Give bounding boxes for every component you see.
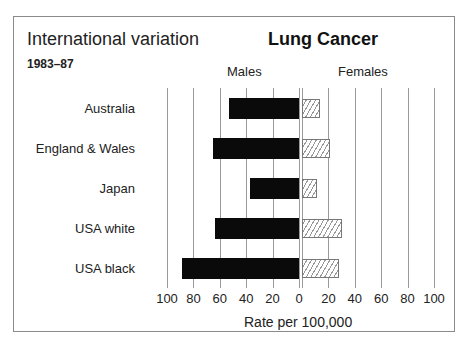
bar-female bbox=[302, 219, 342, 238]
category-label: USA white bbox=[75, 221, 135, 236]
bar-male bbox=[213, 138, 299, 159]
gridline-male bbox=[299, 88, 300, 288]
x-tick-label-female: 100 bbox=[423, 291, 445, 306]
category-label: USA black bbox=[75, 261, 135, 276]
chart-period: 1983–87 bbox=[27, 57, 74, 71]
bar-male bbox=[182, 258, 299, 279]
x-tick-label-female: 40 bbox=[348, 291, 362, 306]
bar-male bbox=[215, 218, 299, 239]
bar-male bbox=[250, 178, 299, 199]
x-tick-label-male: 100 bbox=[156, 291, 178, 306]
males-header: Males bbox=[227, 64, 262, 79]
x-tick-label-male: 80 bbox=[186, 291, 200, 306]
category-label: Australia bbox=[84, 101, 135, 116]
chart-title: Lung Cancer bbox=[268, 29, 378, 50]
x-tick-label-male: 40 bbox=[239, 291, 253, 306]
x-tick-label-female: 20 bbox=[321, 291, 335, 306]
gridline-female bbox=[434, 88, 435, 288]
bar-female bbox=[302, 99, 320, 118]
category-label: Japan bbox=[100, 181, 135, 196]
x-tick-label-female: 60 bbox=[374, 291, 388, 306]
x-axis-label: Rate per 100,000 bbox=[244, 314, 352, 330]
gridline-female bbox=[408, 88, 409, 288]
x-tick-label-male: 60 bbox=[213, 291, 227, 306]
bar-female bbox=[302, 259, 339, 278]
gridline-female bbox=[355, 88, 356, 288]
x-tick-label-male: 0 bbox=[295, 291, 302, 306]
bar-female bbox=[302, 139, 330, 158]
gridline-male bbox=[167, 88, 168, 288]
x-tick-label-female: 80 bbox=[400, 291, 414, 306]
bar-male bbox=[229, 98, 299, 119]
bar-female bbox=[302, 179, 317, 198]
females-header: Females bbox=[338, 64, 388, 79]
category-label: England & Wales bbox=[36, 141, 135, 156]
chart-heading: International variation bbox=[27, 29, 199, 50]
gridline-female bbox=[381, 88, 382, 288]
gridline-female bbox=[328, 88, 329, 288]
x-tick-label-male: 20 bbox=[265, 291, 279, 306]
